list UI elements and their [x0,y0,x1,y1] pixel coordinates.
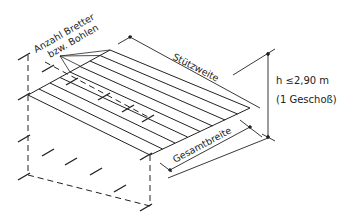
support-dashed-lines [28,55,150,206]
isometric-formwork-diagram: Anzahl Bretter bzw. Bohlen Stützweite Ge… [0,0,353,224]
support-ticks [18,53,154,211]
total-width-dimension [160,120,268,178]
label-storey: (1 Geschoß) [276,94,337,105]
height-dimension [233,49,275,141]
label-height: h ≤2,90 m [276,75,329,86]
diagram-svg: Anzahl Bretter bzw. Bohlen Stützweite Ge… [0,0,353,224]
